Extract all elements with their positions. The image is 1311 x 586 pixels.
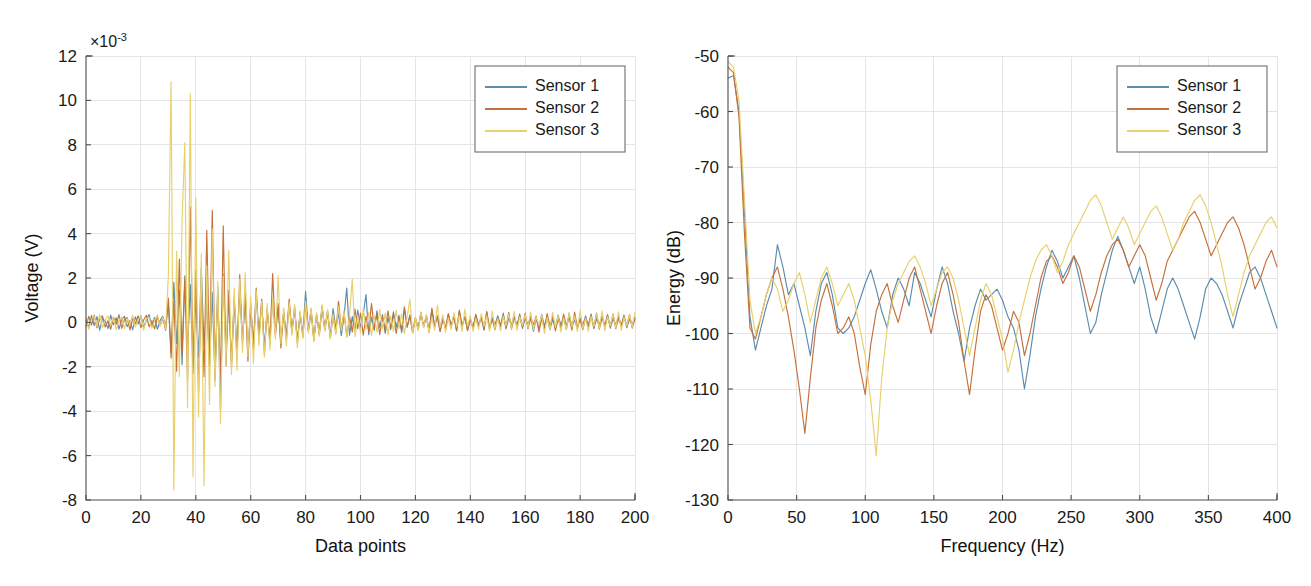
x-tick-label: 120: [401, 508, 429, 527]
legend-label-2: Sensor 2: [1177, 99, 1241, 116]
x-tick-label: 150: [920, 508, 948, 527]
y-tick-label: 0: [68, 313, 77, 332]
x-axis-title: Frequency (Hz): [940, 536, 1064, 556]
y-tick-label: -60: [694, 103, 719, 122]
frequency-domain-panel: 050100150200250300350400-130-120-110-100…: [656, 0, 1311, 586]
y-tick-label: 4: [68, 225, 77, 244]
x-tick-label: 0: [723, 508, 732, 527]
y-tick-label: 6: [68, 180, 77, 199]
y-tick-label: -90: [694, 269, 719, 288]
y-tick-label: -2: [62, 358, 77, 377]
y-tick-label: 10: [58, 91, 77, 110]
legend-label-1: Sensor 1: [1177, 77, 1241, 94]
time-domain-panel: 020406080100120140160180200-8-6-4-202468…: [0, 0, 655, 586]
x-tick-label: 100: [346, 508, 374, 527]
x-tick-label: 40: [186, 508, 205, 527]
legend-label-1: Sensor 1: [535, 77, 599, 94]
y-tick-label: -130: [685, 491, 719, 510]
legend-label-2: Sensor 2: [535, 99, 599, 116]
frequency-domain-chart: 050100150200250300350400-130-120-110-100…: [656, 0, 1311, 586]
x-tick-label: 20: [131, 508, 150, 527]
y-tick-label: -6: [62, 447, 77, 466]
x-tick-label: 0: [81, 508, 90, 527]
y-tick-label: -120: [685, 436, 719, 455]
x-tick-label: 250: [1057, 508, 1085, 527]
y-tick-label: -80: [694, 214, 719, 233]
y-tick-label: -8: [62, 491, 77, 510]
y-tick-label: 12: [58, 47, 77, 66]
x-tick-label: 140: [456, 508, 484, 527]
x-tick-label: 80: [296, 508, 315, 527]
y-tick-label: 8: [68, 136, 77, 155]
x-tick-label: 180: [566, 508, 594, 527]
x-tick-label: 160: [511, 508, 539, 527]
x-tick-label: 200: [621, 508, 649, 527]
y-axis-title: Voltage (V): [22, 233, 42, 322]
y-tick-label: -50: [694, 47, 719, 66]
y-tick-label: -4: [62, 402, 77, 421]
x-tick-label: 100: [851, 508, 879, 527]
y-tick-label: 2: [68, 269, 77, 288]
y-axis-title: Energy (dB): [664, 230, 684, 326]
x-tick-label: 350: [1194, 508, 1222, 527]
legend-label-3: Sensor 3: [535, 121, 599, 138]
y-axis-exponent-label: ×10-3: [90, 31, 127, 50]
time-domain-chart: 020406080100120140160180200-8-6-4-202468…: [0, 0, 655, 586]
x-tick-label: 300: [1126, 508, 1154, 527]
x-axis-title: Data points: [315, 536, 406, 556]
y-tick-label: -110: [686, 380, 719, 399]
x-tick-label: 50: [787, 508, 806, 527]
y-tick-label: -70: [694, 158, 719, 177]
y-tick-label: -100: [685, 325, 719, 344]
legend-label-3: Sensor 3: [1177, 121, 1241, 138]
x-tick-label: 400: [1263, 508, 1291, 527]
x-tick-label: 60: [241, 508, 260, 527]
x-tick-label: 200: [988, 508, 1016, 527]
matlab-figure: 020406080100120140160180200-8-6-4-202468…: [0, 0, 1311, 586]
